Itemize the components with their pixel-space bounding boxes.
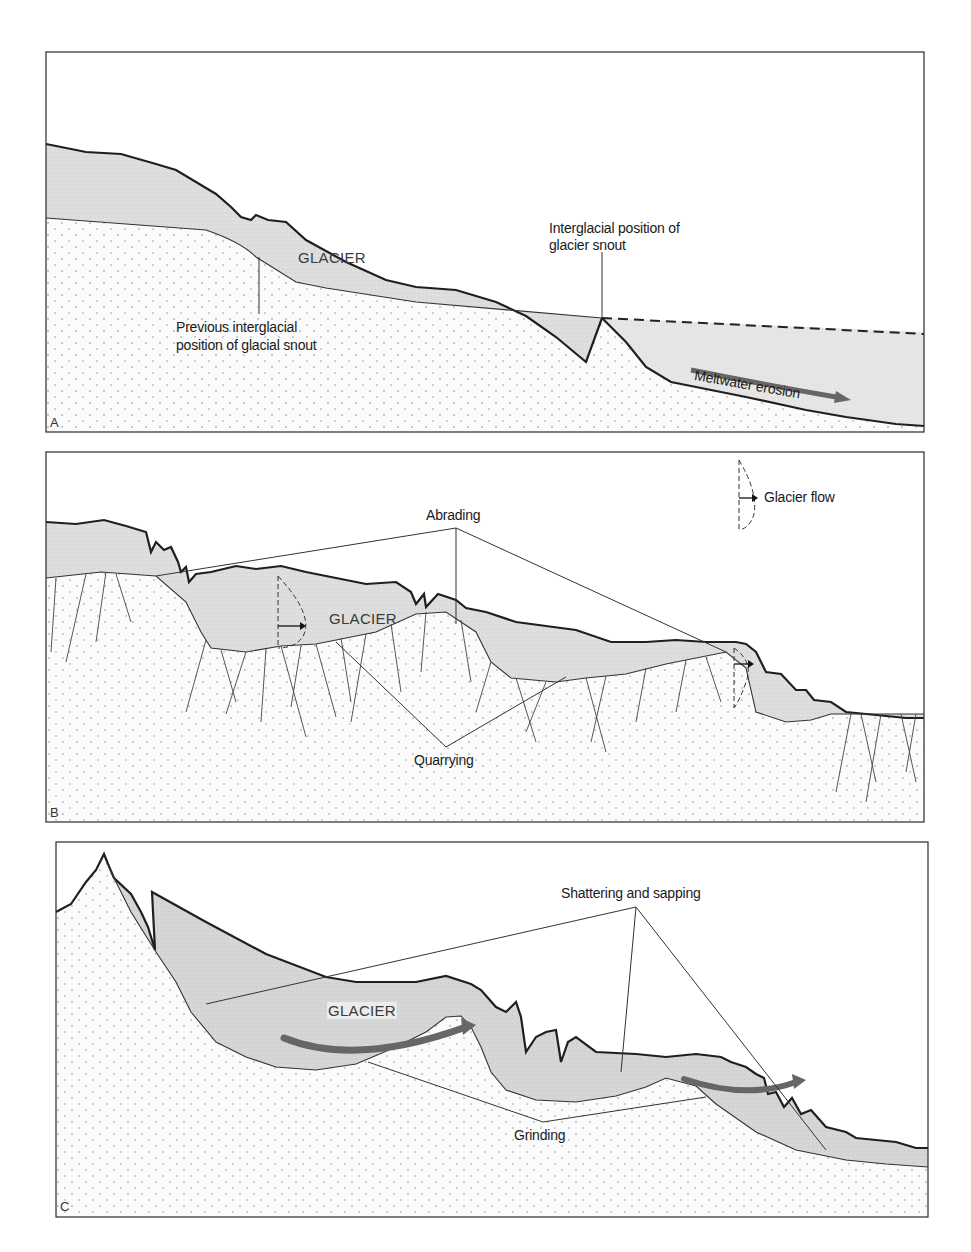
label-shattering-sapping: Shattering and sapping xyxy=(561,885,701,902)
panel-c-drawing xyxy=(56,842,928,1217)
panel-b: GLACIER Abrading Quarrying Glacier flow … xyxy=(46,452,924,822)
glacier-label-a: GLACIER xyxy=(298,249,366,266)
legend-flow-arrowhead-icon xyxy=(752,494,758,502)
panel-c: GLACIER Shattering and sapping Grinding … xyxy=(56,842,928,1217)
label-glacier-flow-legend: Glacier flow xyxy=(764,489,835,506)
panel-letter-b: B xyxy=(50,804,58,821)
label-interglacial-snout-1: Interglacial position of xyxy=(549,220,680,237)
panel-a-drawing xyxy=(46,52,924,432)
glacier-label-c: GLACIER xyxy=(327,1002,397,1019)
label-interglacial-snout-2: glacier snout xyxy=(549,237,626,254)
label-grinding: Grinding xyxy=(514,1127,565,1144)
panel-b-drawing xyxy=(46,452,924,822)
label-previous-snout-2: position of glacial snout xyxy=(176,337,317,354)
panel-letter-a: A xyxy=(50,414,58,431)
glacier-label-b: GLACIER xyxy=(329,610,397,627)
panel-a: GLACIER Interglacial position of glacier… xyxy=(46,52,924,432)
panel-letter-c: C xyxy=(60,1198,69,1215)
label-quarrying: Quarrying xyxy=(414,752,474,769)
label-abrading: Abrading xyxy=(426,507,480,524)
label-previous-snout-1: Previous interglacial xyxy=(176,319,297,336)
grinding-arrowhead-2 xyxy=(792,1074,806,1089)
